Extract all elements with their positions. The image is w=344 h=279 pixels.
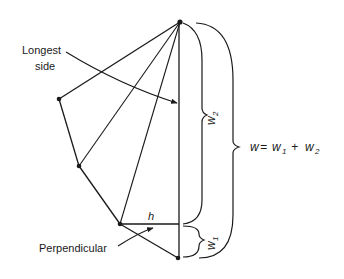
edge-lowerleft-foot xyxy=(79,166,120,224)
longest-side-label-line2: side xyxy=(35,60,55,72)
longest-side-label-line1: Longest xyxy=(22,44,61,56)
svg-text:+: + xyxy=(288,140,302,154)
svg-text:w: w xyxy=(272,140,282,154)
vertex-bottom xyxy=(176,256,181,261)
w1-label: w 1 xyxy=(204,237,220,250)
svg-text:2: 2 xyxy=(211,111,220,117)
diagonal-top-lowerleft xyxy=(79,22,180,166)
svg-text:2: 2 xyxy=(314,147,320,156)
edge-top-left xyxy=(59,22,180,99)
diagonals xyxy=(79,22,180,224)
perpendicular-label: Perpendicular xyxy=(39,242,107,254)
vertex-lower-left xyxy=(77,164,82,169)
w1-brace xyxy=(183,226,204,257)
edge-left-lowerleft xyxy=(59,99,79,166)
svg-text:=: = xyxy=(257,140,271,154)
formula-label: w = w 1 + w 2 xyxy=(250,140,320,156)
w2-label: w 2 xyxy=(204,111,220,125)
diagonal-top-foot xyxy=(120,22,180,224)
svg-text:1: 1 xyxy=(211,237,220,241)
perpendicular-arrow xyxy=(118,228,153,246)
diagram-canvas: Longest side Perpendicular h w 2 w 1 w =… xyxy=(0,0,344,279)
vertex-left xyxy=(57,97,62,102)
svg-text:w: w xyxy=(305,140,315,154)
vertex-top xyxy=(177,19,182,24)
vertex-foot xyxy=(118,222,123,227)
h-label: h xyxy=(148,210,154,222)
svg-text:1: 1 xyxy=(282,147,286,156)
polygon-width-diagram: Longest side Perpendicular h w 2 w 1 w =… xyxy=(0,0,344,279)
